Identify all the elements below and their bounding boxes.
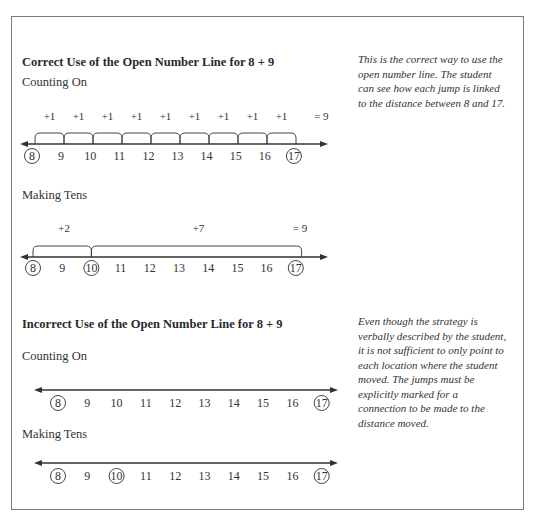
svg-text:9: 9 — [84, 396, 90, 410]
svg-text:13: 13 — [199, 469, 211, 483]
jump-arcs — [33, 246, 302, 257]
svg-text:+1: +1 — [189, 110, 201, 122]
incorrect-making-tens-number-line: 891011121314151617 — [0, 453, 350, 493]
svg-text:+1: +1 — [218, 110, 230, 122]
svg-text:17: 17 — [290, 261, 302, 275]
correct-note: This is the correct way to use the open … — [358, 52, 508, 110]
svg-text:11: 11 — [115, 261, 127, 275]
svg-text:17: 17 — [288, 149, 300, 163]
arrow-right-icon — [320, 141, 328, 147]
incorrect-counting-on-number-line: 891011121314151617 — [0, 380, 350, 420]
svg-text:12: 12 — [169, 396, 181, 410]
svg-text:+1: +1 — [44, 110, 56, 122]
svg-text:+1: +1 — [131, 110, 143, 122]
svg-text:9: 9 — [59, 261, 65, 275]
svg-text:15: 15 — [257, 396, 269, 410]
arrow-left-icon — [20, 141, 28, 147]
svg-text:14: 14 — [201, 149, 213, 163]
incorrect-counting-on-label: Counting On — [22, 349, 87, 364]
svg-text:11: 11 — [140, 396, 152, 410]
svg-text:9: 9 — [84, 469, 90, 483]
svg-text:12: 12 — [142, 149, 154, 163]
incorrect-note: Even though the strategy is verbally des… — [358, 314, 508, 430]
svg-text:15: 15 — [257, 469, 269, 483]
arrow-left-icon — [34, 460, 42, 466]
svg-text:+7: +7 — [193, 222, 205, 234]
svg-text:15: 15 — [230, 149, 242, 163]
svg-text:+1: +1 — [247, 110, 259, 122]
svg-text:15: 15 — [231, 261, 243, 275]
svg-text:= 9: = 9 — [314, 110, 329, 122]
svg-text:12: 12 — [169, 469, 181, 483]
arrow-left-icon — [34, 387, 42, 393]
jump-labels: +2+7= 9 — [58, 222, 307, 234]
svg-text:+2: +2 — [58, 222, 70, 234]
svg-text:16: 16 — [261, 261, 273, 275]
svg-text:16: 16 — [286, 396, 298, 410]
svg-text:+1: +1 — [73, 110, 85, 122]
svg-text:+1: +1 — [160, 110, 172, 122]
svg-text:16: 16 — [286, 469, 298, 483]
incorrect-making-tens-label: Making Tens — [22, 427, 87, 442]
svg-text:10: 10 — [84, 149, 96, 163]
svg-text:8: 8 — [30, 261, 36, 275]
tick-labels: 891011121314151617 — [51, 396, 330, 411]
svg-text:10: 10 — [111, 469, 123, 483]
svg-text:+1: +1 — [102, 110, 114, 122]
correct-section-title: Correct Use of the Open Number Line for … — [22, 55, 274, 70]
svg-text:13: 13 — [173, 261, 185, 275]
svg-text:9: 9 — [58, 149, 64, 163]
arrow-right-icon — [320, 254, 328, 260]
svg-text:11: 11 — [140, 469, 152, 483]
svg-text:13: 13 — [172, 149, 184, 163]
svg-text:+1: +1 — [276, 110, 288, 122]
svg-text:8: 8 — [29, 149, 35, 163]
arrow-right-icon — [330, 387, 338, 393]
svg-text:10: 10 — [111, 396, 123, 410]
svg-text:11: 11 — [114, 149, 126, 163]
jump-arcs — [35, 133, 296, 144]
svg-text:14: 14 — [228, 469, 240, 483]
svg-text:14: 14 — [202, 261, 214, 275]
svg-text:= 9: = 9 — [293, 222, 308, 234]
svg-text:13: 13 — [199, 396, 211, 410]
arrow-left-icon — [20, 254, 28, 260]
svg-text:10: 10 — [85, 261, 97, 275]
jump-labels: +1+1+1+1+1+1+1+1+1= 9 — [44, 110, 329, 122]
svg-text:17: 17 — [316, 469, 328, 483]
svg-text:8: 8 — [55, 396, 61, 410]
arrow-right-icon — [330, 460, 338, 466]
svg-text:12: 12 — [144, 261, 156, 275]
svg-text:16: 16 — [259, 149, 271, 163]
svg-text:8: 8 — [55, 469, 61, 483]
svg-text:17: 17 — [316, 396, 328, 410]
correct-counting-on-label: Counting On — [22, 75, 87, 90]
svg-text:14: 14 — [228, 396, 240, 410]
correct-making-tens-label: Making Tens — [22, 188, 87, 203]
correct-making-tens-number-line: +2+7= 9 891011121314151617 — [0, 212, 340, 272]
correct-counting-on-number-line: +1+1+1+1+1+1+1+1+1= 9 891011121314151617 — [0, 100, 340, 160]
incorrect-section-title: Incorrect Use of the Open Number Line fo… — [22, 317, 283, 332]
tick-labels: 891011121314151617 — [51, 469, 330, 484]
